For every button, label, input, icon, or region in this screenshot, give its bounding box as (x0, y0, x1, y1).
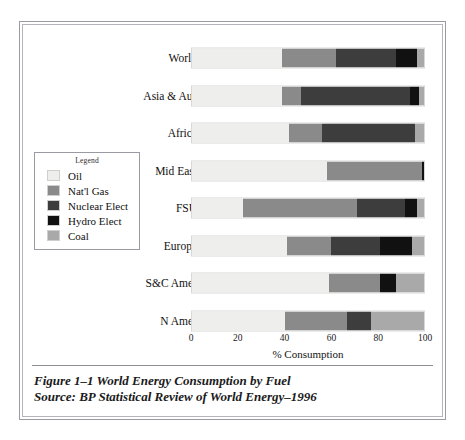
chart-legend: Legend OilNat'l GasNuclear ElectHydro El… (34, 152, 140, 250)
chart-plot-area: WorldAsia & AusAfricaMid EastFSUEuropeS&… (20, 22, 447, 362)
bar-segment (192, 49, 282, 68)
bar-track (191, 48, 425, 69)
bar-segment (192, 311, 285, 330)
bar-segment (282, 49, 335, 68)
bar-row: Asia & Aus (20, 77, 447, 115)
bar-segment (405, 199, 417, 218)
x-axis-tick-label: 80 (373, 333, 383, 343)
figure-frame: WorldAsia & AusAfricaMid EastFSUEuropeS&… (19, 21, 446, 420)
bar-segment (380, 274, 396, 293)
bar-row: S&C Amer (20, 264, 447, 302)
legend-color-swatch (47, 215, 60, 226)
bar-track (191, 235, 425, 256)
bar-segment (192, 161, 327, 180)
legend-item: Oil (39, 168, 135, 183)
x-axis-ticks: 020406080100 (191, 333, 425, 349)
bar-segment (192, 86, 282, 105)
legend-color-swatch (47, 230, 60, 241)
legend-item-label: Nat'l Gas (68, 185, 109, 197)
bar-segment (347, 311, 370, 330)
bar-segment (336, 49, 396, 68)
caption-line-figure: Figure 1–1 World Energy Consumption by F… (34, 373, 433, 389)
x-axis-tick-label: 40 (280, 333, 290, 343)
bar-segment (417, 199, 424, 218)
bar-segment (282, 86, 301, 105)
x-axis-tick-label: 60 (327, 333, 337, 343)
bar-category-label: Asia & Aus (143, 90, 197, 102)
legend-item-list: OilNat'l GasNuclear ElectHydro ElectCoal (39, 168, 135, 243)
figure-caption: Figure 1–1 World Energy Consumption by F… (34, 373, 433, 405)
bar-segment (331, 236, 380, 255)
caption-divider (32, 365, 433, 366)
bar-segment (192, 274, 329, 293)
bar-track (191, 85, 425, 106)
bar-segment (287, 236, 331, 255)
bar-track (191, 310, 425, 331)
legend-item: Nat'l Gas (39, 183, 135, 198)
bar-segment (243, 199, 357, 218)
bar-track (191, 198, 425, 219)
x-axis-tick-label: 0 (189, 333, 194, 343)
legend-item: Coal (39, 228, 135, 243)
bar-segment (371, 311, 424, 330)
bar-segment (422, 161, 424, 180)
bar-segment (380, 236, 412, 255)
bar-segment (289, 124, 321, 143)
bar-segment (301, 86, 410, 105)
bar-segment (285, 311, 348, 330)
x-axis-tick-label: 100 (418, 333, 432, 343)
bar-segment (327, 161, 422, 180)
bar-track (191, 123, 425, 144)
bar-segment (410, 86, 419, 105)
caption-line-source: Source: BP Statistical Review of World E… (34, 389, 433, 405)
bar-segment (329, 274, 380, 293)
legend-item-label: Coal (68, 230, 89, 242)
x-axis-title: % Consumption (191, 348, 425, 360)
bar-category-label: S&C Amer (146, 277, 197, 289)
bar-segment (415, 124, 424, 143)
bar-segment (322, 124, 415, 143)
bar-segment (417, 49, 424, 68)
legend-item: Hydro Elect (39, 213, 135, 228)
bar-track (191, 273, 425, 294)
legend-title: Legend (39, 156, 135, 165)
legend-item-label: Hydro Elect (68, 215, 121, 227)
x-axis-tick-label: 20 (233, 333, 243, 343)
bar-segment (192, 236, 287, 255)
bar-segment (192, 124, 289, 143)
bar-row: Africa (20, 114, 447, 152)
bar-segment (192, 199, 243, 218)
legend-color-swatch (47, 185, 60, 196)
legend-item-label: Oil (68, 170, 82, 182)
bar-segment (396, 274, 424, 293)
legend-color-swatch (47, 170, 60, 181)
bar-segment (419, 86, 424, 105)
bar-track (191, 160, 425, 181)
legend-color-swatch (47, 200, 60, 211)
legend-item: Nuclear Elect (39, 198, 135, 213)
bar-segment (357, 199, 406, 218)
bar-segment (412, 236, 424, 255)
legend-item-label: Nuclear Elect (68, 200, 128, 212)
bar-row: World (20, 39, 447, 77)
bar-segment (396, 49, 417, 68)
